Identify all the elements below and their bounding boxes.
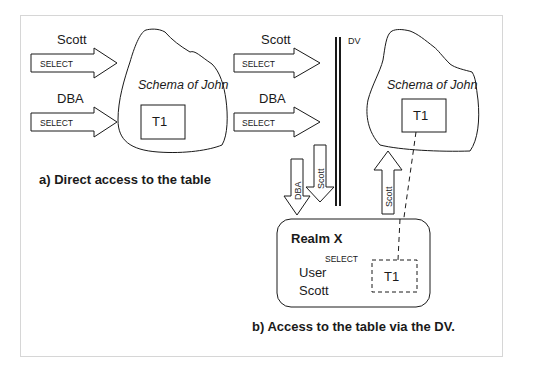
- user-label-dba-b: DBA: [259, 91, 286, 106]
- realm-title: Realm X: [291, 231, 343, 246]
- realm-user-value: Scott: [299, 283, 329, 298]
- part-b-dv-access: Scott SELECT DBA SELECT DV DBA Scott Sch…: [234, 30, 479, 335]
- privilege-label-dba-b: SELECT: [242, 118, 275, 128]
- schema-label-b: Schema of John: [387, 78, 477, 92]
- caption-a: a) Direct access to the table: [39, 172, 211, 187]
- part-a-direct-access: Scott SELECT DBA SELECT Schema of John T…: [31, 29, 228, 187]
- table-label-t1-b: T1: [413, 108, 428, 123]
- table-label-t1-a: T1: [152, 114, 167, 129]
- dv-label: DV: [348, 36, 361, 46]
- realm-table-label: T1: [384, 269, 399, 284]
- privilege-label-dba-a: SELECT: [40, 118, 73, 128]
- privilege-label-scott-b: SELECT: [242, 59, 275, 69]
- up-arrow-scott-label: Scott: [384, 186, 394, 207]
- schema-label-a: Schema of John: [138, 78, 228, 92]
- down-arrow-dba-label: DBA: [293, 181, 303, 200]
- caption-b: b) Access to the table via the DV.: [252, 319, 455, 334]
- realm-privilege: SELECT: [325, 254, 358, 264]
- user-label-scott-b: Scott: [261, 32, 291, 47]
- user-label-scott-a: Scott: [57, 32, 87, 47]
- down-arrow-scott-label: Scott: [316, 168, 326, 189]
- privilege-label-scott-a: SELECT: [40, 59, 73, 69]
- user-label-dba-a: DBA: [57, 91, 84, 106]
- realm-user-label: User: [299, 265, 327, 280]
- privilege-diagram: Scott SELECT DBA SELECT Schema of John T…: [0, 0, 533, 368]
